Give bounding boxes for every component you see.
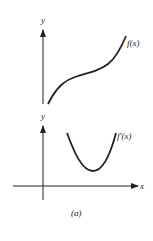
derivative-diagram: y f(x) y x f′(x) (a) xyxy=(0,0,153,241)
bottom-y-axis-label: y xyxy=(40,111,45,121)
f-of-x-label: f(x) xyxy=(127,38,140,48)
top-panel: y f(x) xyxy=(40,15,140,104)
f-of-x-curve xyxy=(48,36,126,104)
top-y-axis-label: y xyxy=(40,15,45,25)
f-prime-of-x-label: f′(x) xyxy=(117,131,131,141)
x-axis-label: x xyxy=(139,181,144,191)
f-prime-of-x-curve xyxy=(67,133,116,171)
figure-caption: (a) xyxy=(71,208,82,218)
bottom-panel: y x f′(x) xyxy=(13,111,144,200)
